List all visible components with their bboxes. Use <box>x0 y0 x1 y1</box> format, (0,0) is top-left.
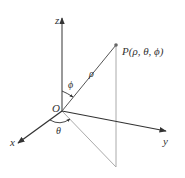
x-axis-label: x <box>9 136 15 148</box>
rho-label: ρ <box>88 68 94 79</box>
phi-arc <box>62 91 73 97</box>
point-label: P(ρ, θ, ϕ) <box>121 45 164 58</box>
y-axis <box>62 111 166 131</box>
y-axis-label: y <box>162 135 168 147</box>
z-axis-label: z <box>54 14 60 26</box>
theta-arc <box>50 119 70 123</box>
point-p <box>114 43 118 47</box>
origin-label: O <box>52 102 60 114</box>
phi-label: ϕ <box>68 79 73 90</box>
theta-label: θ <box>56 125 61 136</box>
spherical-coordinates-diagram: z x y O P(ρ, θ, ϕ) ρ ϕ θ <box>0 0 185 178</box>
